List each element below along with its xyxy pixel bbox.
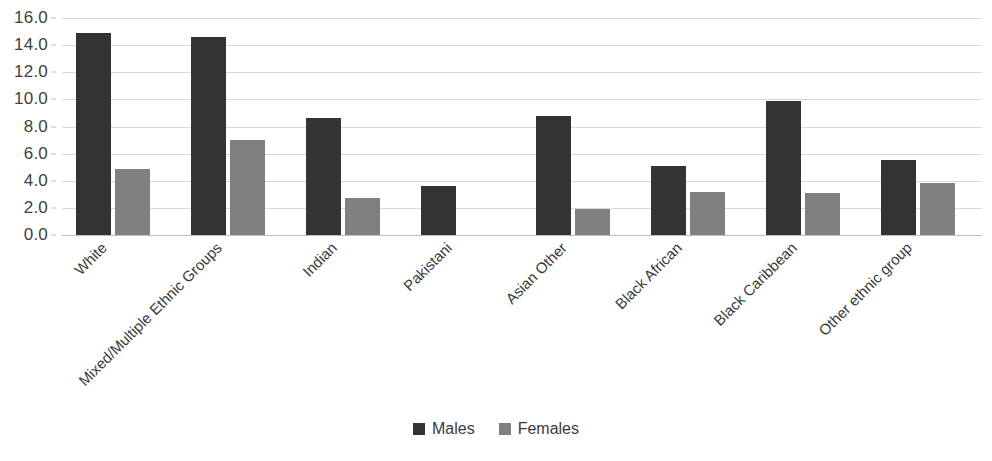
- bar-group: [177, 18, 292, 235]
- y-tick-label: 10.0: [14, 89, 48, 109]
- x-tick-slot: Asian Other: [522, 235, 637, 405]
- bar-female[interactable]: [805, 193, 840, 235]
- y-tick-mark: [51, 45, 56, 46]
- bar-group: [637, 18, 752, 235]
- x-axis-category-labels: WhiteMixed/Multiple Ethnic GroupsIndianP…: [62, 235, 982, 405]
- bar-male[interactable]: [421, 186, 456, 235]
- bar-group: [407, 18, 522, 235]
- y-tick-label: 0.0: [24, 225, 48, 245]
- x-tick-label: Indian: [299, 239, 340, 280]
- x-tick-slot: Black African: [637, 235, 752, 405]
- y-tick-mark: [51, 153, 56, 154]
- y-tick-mark: [51, 180, 56, 181]
- bar-male[interactable]: [766, 101, 801, 235]
- y-tick-mark: [51, 99, 56, 100]
- y-tick-mark: [51, 207, 56, 208]
- x-tick-slot: Other ethnic group: [867, 235, 982, 405]
- bar-male[interactable]: [306, 118, 341, 235]
- bar-chart: 16.014.012.010.08.06.04.02.00.0 WhiteMix…: [0, 0, 992, 461]
- legend-label: Females: [518, 420, 579, 438]
- legend-item[interactable]: Females: [499, 420, 579, 438]
- legend: MalesFemales: [0, 420, 992, 438]
- y-axis: 16.014.012.010.08.06.04.02.00.0: [0, 18, 56, 235]
- y-tick-label: 8.0: [24, 117, 48, 137]
- bar-male[interactable]: [76, 33, 111, 235]
- legend-swatch-icon: [413, 423, 425, 435]
- bar-male[interactable]: [881, 160, 916, 235]
- x-tick-label: Pakistani: [400, 239, 455, 294]
- bar-groups: [62, 18, 982, 235]
- legend-label: Males: [432, 420, 475, 438]
- bar-female[interactable]: [920, 183, 955, 235]
- y-tick-mark: [51, 72, 56, 73]
- bar-group: [867, 18, 982, 235]
- bar-group: [522, 18, 637, 235]
- bar-group: [62, 18, 177, 235]
- y-tick-label: 4.0: [24, 171, 48, 191]
- bar-male[interactable]: [536, 116, 571, 235]
- y-tick-label: 14.0: [14, 35, 48, 55]
- y-tick-label: 12.0: [14, 62, 48, 82]
- y-tick-label: 6.0: [24, 144, 48, 164]
- bar-male[interactable]: [191, 37, 226, 235]
- bar-female[interactable]: [345, 198, 380, 235]
- y-tick-mark: [51, 126, 56, 127]
- bar-group: [752, 18, 867, 235]
- y-tick-mark: [51, 235, 56, 236]
- x-tick-slot: Indian: [292, 235, 407, 405]
- legend-item[interactable]: Males: [413, 420, 475, 438]
- chart-title: [0, 0, 992, 4]
- y-tick-label: 16.0: [14, 8, 48, 28]
- x-tick-slot: Mixed/Multiple Ethnic Groups: [177, 235, 292, 405]
- plot-area: [62, 18, 982, 235]
- x-tick-slot: Pakistani: [407, 235, 522, 405]
- x-tick-slot: Black Caribbean: [752, 235, 867, 405]
- y-tick-label: 2.0: [24, 198, 48, 218]
- bar-female[interactable]: [575, 209, 610, 235]
- bar-female[interactable]: [115, 169, 150, 235]
- legend-swatch-icon: [499, 423, 511, 435]
- bar-group: [292, 18, 407, 235]
- bar-female[interactable]: [230, 140, 265, 235]
- bar-female[interactable]: [690, 192, 725, 235]
- y-tick-mark: [51, 18, 56, 19]
- bar-male[interactable]: [651, 166, 686, 235]
- x-tick-label: White: [71, 239, 110, 278]
